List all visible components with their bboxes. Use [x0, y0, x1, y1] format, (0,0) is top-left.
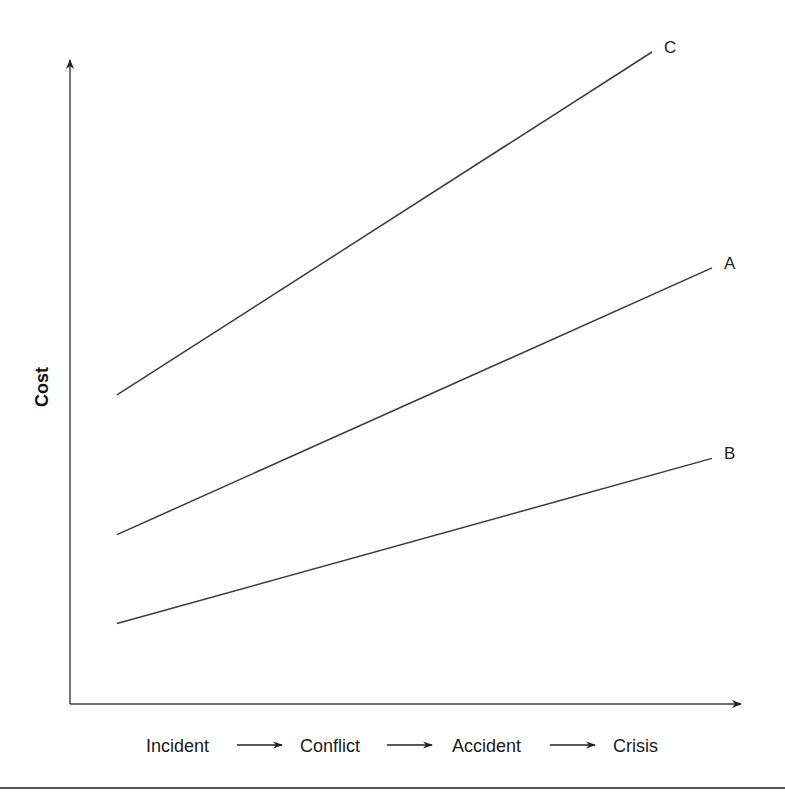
stage-label-conflict: Conflict [300, 736, 360, 756]
x-stage-sequence: Incident Conflict Accident Crisis [146, 736, 658, 756]
chart-canvas: Cost CAB Incident Conflict Accident Cris… [0, 0, 785, 798]
stage-label-crisis: Crisis [613, 736, 658, 756]
stage-label-incident: Incident [146, 736, 209, 756]
series-line-c [117, 52, 652, 395]
series-label-a: A [724, 254, 736, 273]
series-line-a [117, 268, 712, 535]
series-line-b [117, 458, 712, 623]
y-axis-label: Cost [32, 367, 52, 407]
series-label-c: C [664, 38, 676, 57]
series-label-b: B [724, 444, 735, 463]
stage-label-accident: Accident [452, 736, 521, 756]
series-group: CAB [117, 38, 736, 624]
